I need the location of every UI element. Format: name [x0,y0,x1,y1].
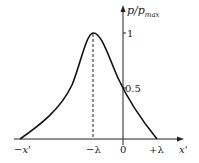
y-axis-label: p/pmax [127,4,160,19]
x-tick-label-zero: 0 [120,144,126,155]
pressure-chart: p/pmax 1 0.5 −x' −λ 0 +λ x' [0,0,199,163]
x-tick-label-neg-lambda: −λ [86,144,101,155]
x-tick-label-neg-xprime: −x' [14,144,31,155]
x-axis-arrow-icon [177,137,184,142]
x-axis-label: x' [179,144,187,155]
y-tick-label-half: 0.5 [125,83,141,94]
y-tick-label-1: 1 [127,28,133,39]
y-axis-arrow-icon [121,5,126,12]
x-tick-label-pos-lambda: +λ [149,144,164,155]
